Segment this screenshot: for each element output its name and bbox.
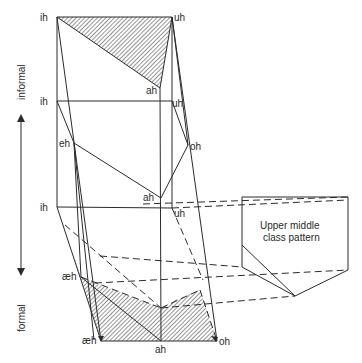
inset-title-line2: class pattern <box>263 232 320 243</box>
middle-uh-label: uh <box>172 98 183 109</box>
middle-eh-label: eh <box>59 138 70 149</box>
top-uh-label: uh <box>174 12 185 23</box>
style-axis: informal formal <box>16 64 27 332</box>
bottom-oh-label: oh <box>219 336 230 347</box>
vowel-shift-diagram: informal formal ih uh ah ih uh eh oh <box>0 0 362 363</box>
lower-ih-label: ih <box>40 202 48 213</box>
top-ih-label: ih <box>40 12 48 23</box>
top-shaded-triangle <box>57 17 172 88</box>
top-ah-label: ah <box>146 85 157 96</box>
middle-level: ih uh eh oh ah <box>40 96 201 203</box>
upper-middle-class-inset: Upper middle class pattern <box>242 197 348 296</box>
informal-label: informal <box>16 64 27 100</box>
middle-ih-label: ih <box>40 96 48 107</box>
middle-ah-label: ah <box>143 192 154 203</box>
inset-title-line1: Upper middle <box>260 220 320 231</box>
lower-uh-label: uh <box>174 208 185 219</box>
formal-label: formal <box>16 304 27 332</box>
bottom-ah-label: ah <box>155 344 166 355</box>
bottom-aeh-lower-label: æh <box>82 335 96 346</box>
bottom-aeh-upper-label: æh <box>62 271 76 282</box>
middle-oh-label: oh <box>190 141 201 152</box>
